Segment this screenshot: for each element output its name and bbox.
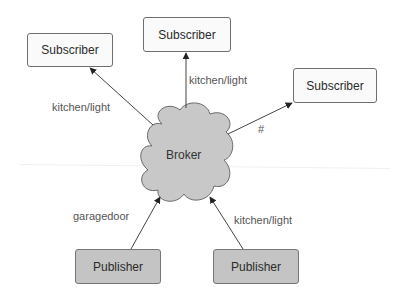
subscriber-left-label: Subscriber	[41, 43, 98, 57]
subscriber-box-left: Subscriber	[27, 33, 113, 67]
subscriber-top-label: Subscriber	[158, 28, 215, 42]
arrow-pub-left-to-broker	[131, 197, 160, 249]
topic-label-sub-right: #	[258, 123, 264, 135]
topic-label-pub-left: garagedoor	[73, 210, 129, 222]
subscriber-box-top: Subscriber	[143, 17, 231, 52]
publisher-box-right: Publisher	[213, 249, 299, 284]
topic-label-pub-right: kitchen/light	[234, 214, 292, 226]
topic-label-sub-top: kitchen/light	[189, 74, 247, 86]
broker-label: Broker	[166, 148, 201, 162]
pubsub-diagram: Broker Subscriber Subscriber Subscriber …	[0, 0, 395, 299]
publisher-left-label: Publisher	[93, 260, 143, 274]
publisher-box-left: Publisher	[75, 249, 161, 284]
subscriber-box-right: Subscriber	[293, 68, 377, 103]
arrow-broker-to-sub-left	[90, 68, 153, 125]
publisher-right-label: Publisher	[231, 260, 281, 274]
topic-label-sub-left: kitchen/light	[52, 101, 110, 113]
subscriber-right-label: Subscriber	[306, 79, 363, 93]
